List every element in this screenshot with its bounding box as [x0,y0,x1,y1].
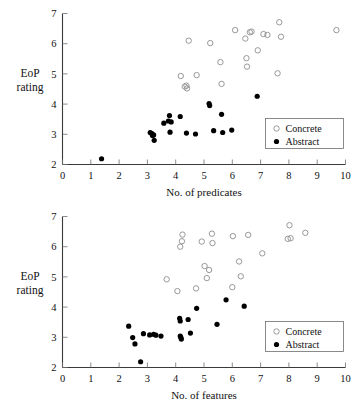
data-point-abstract [207,103,212,108]
data-point-abstract [130,335,135,340]
y-tick-label-3: 3 [51,129,56,140]
series-abstract [99,94,260,162]
data-point-abstract [242,304,247,309]
data-point-abstract [141,331,146,336]
series-abstract [126,297,247,364]
data-point-abstract [161,121,166,126]
data-point-abstract [169,119,174,124]
data-point-abstract [219,112,224,117]
x-tick-label-4: 4 [173,373,179,384]
y-tick-label-4: 4 [51,302,57,313]
data-point-concrete [218,59,223,64]
scatter-chart-features: 234567012345678910No. of featuresEoPrati… [0,203,356,403]
data-point-concrete [243,36,248,41]
data-point-concrete [199,239,204,244]
y-tick-label-6: 6 [51,241,56,252]
y-tick-label-5: 5 [51,272,56,283]
data-point-concrete [303,230,308,235]
data-point-concrete [232,27,237,32]
legend-marker-abstract [274,139,279,144]
data-point-concrete [179,239,184,244]
y-axis-title-line-2: rating [17,81,44,94]
data-point-abstract [179,337,184,342]
data-point-concrete [278,34,283,39]
data-point-abstract [126,324,131,329]
x-tick-label-10: 10 [340,373,351,384]
data-point-concrete [206,267,211,272]
data-point-abstract [211,128,216,133]
y-tick-label-7: 7 [51,211,56,222]
data-point-concrete [334,27,339,32]
x-tick-label-9: 9 [315,373,320,384]
data-point-concrete [178,244,183,249]
y-tick-label-6: 6 [51,38,56,49]
data-point-concrete [209,231,214,236]
y-tick-label-2: 2 [51,159,56,170]
y-tick-label-4: 4 [51,99,57,110]
data-point-concrete [178,73,183,78]
data-point-concrete [210,240,215,245]
data-point-concrete [193,286,198,291]
data-point-concrete [244,64,249,69]
y-tick-label-3: 3 [51,332,56,343]
data-point-concrete [219,81,224,86]
y-tick-label-7: 7 [51,8,56,19]
data-point-abstract [167,130,172,135]
x-tick-label-0: 0 [60,170,65,181]
data-point-concrete [180,232,185,237]
data-point-concrete [255,48,260,53]
x-tick-label-7: 7 [258,373,263,384]
data-point-concrete [208,40,213,45]
data-point-concrete [244,56,249,61]
legend-marker-abstract [274,342,279,347]
legend-label-abstract: Abstract [286,339,320,350]
data-point-abstract [184,130,189,135]
y-axis-title-line-1: EoP [20,67,39,79]
data-point-abstract [167,113,172,118]
x-tick-label-1: 1 [88,373,93,384]
data-point-abstract [99,156,104,161]
data-point-abstract [153,333,158,338]
y-axis-title-line-1: EoP [20,270,39,282]
data-point-concrete [287,223,292,228]
x-tick-label-3: 3 [145,373,150,384]
data-point-abstract [229,127,234,132]
data-point-concrete [204,275,209,280]
data-point-abstract [223,297,228,302]
data-point-abstract [186,317,191,322]
data-point-concrete [275,71,280,76]
x-axis-title: No. of predicates [166,186,241,198]
x-tick-label-4: 4 [173,170,179,181]
x-tick-label-10: 10 [340,170,351,181]
y-tick-label-2: 2 [51,362,56,373]
x-tick-label-9: 9 [315,170,320,181]
data-point-concrete [164,277,169,282]
data-point-abstract [214,322,219,327]
legend-label-concrete: Concrete [286,123,323,134]
data-point-abstract [194,306,199,311]
x-tick-label-5: 5 [201,373,206,384]
data-point-concrete [230,284,235,289]
data-point-concrete [186,38,191,43]
data-point-concrete [194,72,199,77]
x-tick-label-7: 7 [258,170,263,181]
x-tick-label-0: 0 [60,373,65,384]
data-point-abstract [188,330,193,335]
data-point-concrete [245,232,250,237]
data-point-abstract [178,318,183,323]
x-tick-label-6: 6 [230,373,235,384]
data-point-abstract [178,114,183,119]
y-tick-label-5: 5 [51,69,56,80]
series-concrete [164,223,308,294]
x-axis-title: No. of features [171,389,237,401]
data-point-concrete [175,288,180,293]
data-point-abstract [220,130,225,135]
data-point-concrete [230,233,235,238]
x-tick-label-5: 5 [201,170,206,181]
data-point-abstract [151,132,156,137]
data-point-concrete [277,20,282,25]
x-tick-label-3: 3 [145,170,150,181]
x-tick-label-2: 2 [116,170,121,181]
plot-area-predicates: 234567012345678910No. of predicatesEoPra… [0,0,356,200]
data-point-abstract [158,333,163,338]
